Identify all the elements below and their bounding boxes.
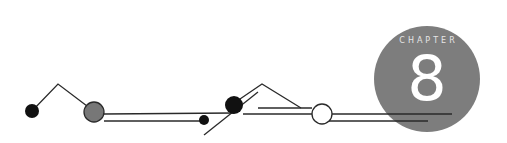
gray-circle-icon [84,102,104,122]
big-black-dot-icon [225,96,243,114]
triangle-line [240,84,301,108]
small-black-dot-icon [199,115,209,125]
line-node-ornament [0,0,507,143]
zigzag-line-left [32,84,87,111]
upper-rail-left [104,113,234,114]
white-circle-icon [312,104,332,124]
black-dot-left-icon [25,104,39,118]
chapter-header-graphic: CHAPTER 8 [0,0,507,143]
